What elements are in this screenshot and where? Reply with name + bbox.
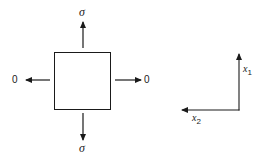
- stress-element-square: [55, 53, 111, 110]
- top-load-label: σ: [79, 6, 85, 18]
- x1-axis-label: x1: [243, 64, 252, 77]
- stress-diagram: [0, 0, 257, 158]
- right-load-label: 0: [144, 75, 150, 85]
- x2-axis-label: x2: [192, 113, 201, 126]
- bottom-load-label: σ: [79, 142, 85, 154]
- left-load-label: 0: [12, 75, 18, 85]
